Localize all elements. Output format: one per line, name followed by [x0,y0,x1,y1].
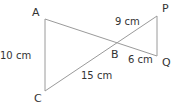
length-label-BC: 15 cm [81,70,112,81]
point-label-B: B [111,48,119,61]
point-label-P: P [162,2,169,15]
segment-AQ [45,19,157,56]
point-label-A: A [32,6,40,19]
triangle-diagram: A C P Q B 10 cm 9 cm 6 cm 15 cm [0,0,178,107]
length-label-AC: 10 cm [0,50,31,61]
length-label-BP: 9 cm [115,16,140,27]
point-label-Q: Q [162,56,171,69]
length-label-BQ: 6 cm [128,54,153,65]
point-label-C: C [34,92,42,105]
